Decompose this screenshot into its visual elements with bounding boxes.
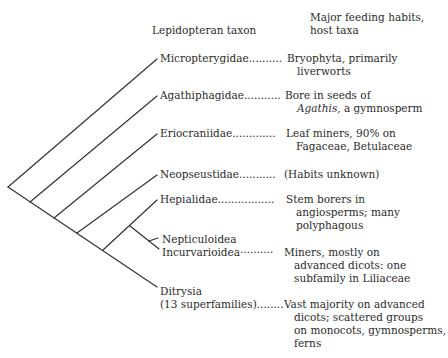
leader-dots: .......... bbox=[240, 243, 273, 256]
leader-dots: ........... bbox=[239, 168, 276, 180]
habit-neopseustidae-1: (Habits unknown) bbox=[284, 168, 379, 181]
header-habits-line2: host taxa bbox=[310, 24, 359, 37]
habit-nepticuloidea-3: subfamily in Liliaceae bbox=[294, 272, 410, 285]
habit-ditrysia-3: on monocots, gymnosperms, bbox=[294, 324, 446, 337]
habit-nepticuloidea-2: advanced dicots: one bbox=[294, 259, 406, 272]
taxon-incurvarioidea: Incurvarioidea bbox=[162, 246, 240, 259]
branch-hepialidae bbox=[103, 200, 157, 250]
branch-eriocraniidae bbox=[54, 134, 157, 218]
genus-agathis: Agathis bbox=[297, 102, 337, 114]
taxon-hepialidae: Hepialidae................. bbox=[160, 193, 274, 206]
taxon-agathiphagidae: Agathiphagidae........... bbox=[160, 89, 281, 102]
branch-incurvarioidea bbox=[149, 241, 159, 249]
habit-ditrysia-1: Vast majority on advanced bbox=[284, 298, 425, 311]
cladogram-figure: Lepidopteran taxon Major feeding habits,… bbox=[0, 0, 448, 358]
habit-micropterygidae-1: Bryophyta, primarily bbox=[287, 52, 398, 65]
leader-dots: .......... bbox=[249, 52, 282, 64]
leader-dots: ................. bbox=[218, 193, 275, 205]
habit-eriocraniidae-2: Fagaceae, Betulaceae bbox=[296, 140, 412, 153]
branch-micropterygidae bbox=[8, 59, 157, 187]
taxon-eriocraniidae: Eriocraniidae............. bbox=[160, 127, 276, 140]
taxon-micropterygidae: Micropterygidae.......... bbox=[160, 52, 282, 65]
habit-nepticuloidea-1: Miners, mostly on bbox=[284, 246, 380, 259]
habit-hepialidae-1: Stem borers in bbox=[286, 193, 365, 206]
leader-dots: ............. bbox=[232, 127, 275, 139]
branch-nepticuloidea-stem bbox=[130, 226, 149, 241]
habit-ditrysia-4: ferns bbox=[294, 337, 321, 350]
leader-dots: ........ bbox=[257, 298, 284, 310]
header-habits-line1: Major feeding habits, bbox=[310, 11, 424, 24]
branch-neopseustidae bbox=[77, 175, 157, 233]
habit-agathiphagidae-2: Agathis, a gymnosperm bbox=[297, 102, 423, 115]
habit-eriocraniidae-1: Leaf miners, 90% on bbox=[286, 127, 396, 140]
leader-dots: ........... bbox=[244, 89, 281, 101]
header-taxon: Lepidopteran taxon bbox=[152, 24, 256, 37]
taxon-neopseustidae: Neopseustidae........... bbox=[160, 168, 276, 181]
habit-micropterygidae-2: liverworts bbox=[297, 65, 351, 78]
taxon-ditrysia: Ditrysia bbox=[160, 285, 202, 298]
habit-hepialidae-2: angiosperms; many bbox=[296, 206, 400, 219]
habit-ditrysia-2: dicots; scattered groups bbox=[294, 311, 423, 324]
taxon-nepticuloidea: Nepticuloidea bbox=[162, 233, 237, 246]
habit-hepialidae-3: polyphagous bbox=[296, 219, 363, 232]
branch-nepticuloidea bbox=[149, 238, 158, 241]
habit-agathiphagidae-1: Bore in seeds of bbox=[285, 89, 371, 102]
taxon-ditrysia-superfamilies: (13 superfamilies)........ bbox=[160, 298, 283, 311]
